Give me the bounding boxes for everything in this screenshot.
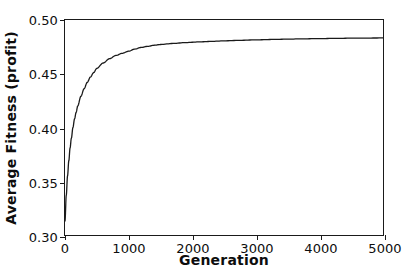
- y-axis-tick-label: 0.50: [29, 13, 58, 28]
- x-axis-tick: [257, 235, 258, 240]
- plot-area: 0.300.350.400.450.5001000200030004000500…: [64, 19, 384, 236]
- y-axis-tick: [60, 20, 65, 21]
- x-axis-tick: [321, 235, 322, 240]
- y-axis-tick-label: 0.45: [29, 67, 58, 82]
- chart-figure: Average Fitness (profit) 0.300.350.400.4…: [0, 0, 415, 276]
- y-axis-tick-label: 0.40: [29, 121, 58, 136]
- y-axis-tick-label: 0.30: [29, 230, 58, 245]
- y-axis-tick-label: 0.35: [29, 175, 58, 190]
- x-axis-tick: [65, 235, 66, 240]
- y-axis-tick: [60, 74, 65, 75]
- y-axis-title: Average Fitness (profit): [0, 19, 22, 236]
- series-line-average-fitness: [65, 20, 383, 235]
- x-axis-tick: [129, 235, 130, 240]
- x-axis-title-text: Generation: [179, 252, 269, 268]
- x-axis-tick: [385, 235, 386, 240]
- y-axis-tick: [60, 183, 65, 184]
- x-axis-tick: [193, 235, 194, 240]
- y-axis-title-text: Average Fitness (profit): [3, 31, 19, 224]
- y-axis-tick: [60, 129, 65, 130]
- x-axis-title: Generation: [64, 252, 384, 268]
